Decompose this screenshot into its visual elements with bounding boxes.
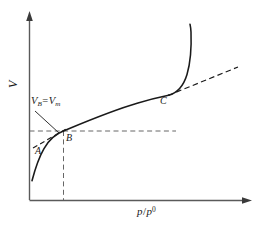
monolayer-volume-label: VB=Vm bbox=[31, 96, 60, 108]
plot-area bbox=[0, 0, 261, 237]
x-axis-superscript: 0 bbox=[152, 205, 156, 214]
point-b-label: B bbox=[66, 133, 72, 143]
y-axis-arrowhead bbox=[26, 11, 33, 21]
equals-sign: = bbox=[42, 95, 49, 106]
point-b-text: B bbox=[66, 132, 72, 143]
x-axis-numerator: p bbox=[137, 205, 143, 217]
point-c-label: C bbox=[160, 96, 167, 106]
x-axis-label: p/p0 bbox=[137, 206, 156, 217]
y-axis-label-text: V bbox=[6, 81, 20, 88]
point-a-label: A bbox=[35, 146, 41, 156]
isotherm-upper-branch bbox=[169, 24, 192, 95]
bet-isotherm-figure: V p/p0 VB=Vm A B C bbox=[0, 0, 261, 237]
point-c-text: C bbox=[160, 95, 167, 106]
vm-subscript: m bbox=[55, 100, 60, 108]
x-axis-arrowhead bbox=[242, 197, 252, 203]
upper-tangent bbox=[168, 67, 238, 96]
y-axis-label: V bbox=[7, 81, 19, 88]
vb-leader-line bbox=[35, 111, 59, 133]
isotherm-middle-branch bbox=[63, 95, 168, 131]
point-a-text: A bbox=[35, 145, 41, 156]
